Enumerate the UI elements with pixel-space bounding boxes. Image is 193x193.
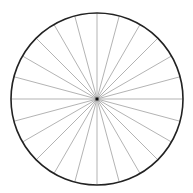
spoke-line <box>36 99 97 160</box>
spoke-line <box>75 16 97 99</box>
spoke-line <box>23 99 97 142</box>
spoke-line <box>36 38 97 99</box>
spoke-line <box>14 99 97 121</box>
spoke-line <box>97 77 180 99</box>
spoke-line <box>97 99 140 173</box>
spoke-line <box>54 25 97 99</box>
spoke-line <box>97 25 140 99</box>
spoke-line <box>97 99 158 160</box>
spoke-line <box>97 99 180 121</box>
spoke-line <box>97 56 171 99</box>
spoke-line <box>23 56 97 99</box>
spoke-line <box>97 38 158 99</box>
center-point <box>96 98 99 101</box>
divided-circle-diagram <box>0 0 193 193</box>
spoke-line <box>75 99 97 182</box>
spoke-line <box>14 77 97 99</box>
spoke-line <box>54 99 97 173</box>
spoke-line <box>97 16 119 99</box>
spoke-line <box>97 99 171 142</box>
spoke-line <box>97 99 119 182</box>
